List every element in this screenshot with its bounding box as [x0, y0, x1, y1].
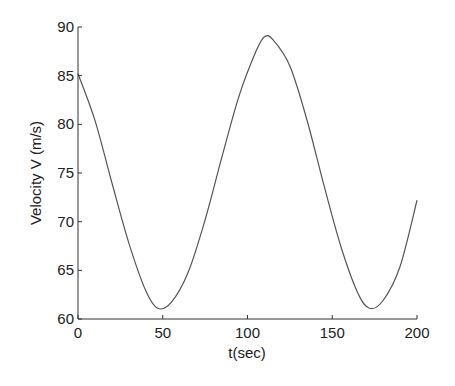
x-tick-label: 150 [320, 324, 345, 341]
series-line [78, 36, 417, 310]
y-tick-label: 65 [57, 261, 74, 278]
plot-area [78, 36, 417, 310]
y-tick-label: 60 [57, 310, 74, 327]
x-tick-label: 100 [235, 324, 260, 341]
chart: 60657075808590050100150200 t(sec) Veloci… [0, 0, 455, 386]
y-tick-label: 75 [57, 164, 74, 181]
y-tick-label: 90 [57, 18, 74, 35]
axes: 60657075808590050100150200 [57, 18, 429, 341]
x-tick-label: 0 [74, 324, 82, 341]
x-axis-title: t(sec) [228, 344, 266, 361]
y-tick-label: 80 [57, 115, 74, 132]
y-tick-label: 85 [57, 67, 74, 84]
x-tick-label: 50 [154, 324, 171, 341]
x-tick-label: 200 [404, 324, 429, 341]
y-axis-title: Velocity V (m/s) [27, 121, 44, 225]
y-tick-label: 70 [57, 213, 74, 230]
